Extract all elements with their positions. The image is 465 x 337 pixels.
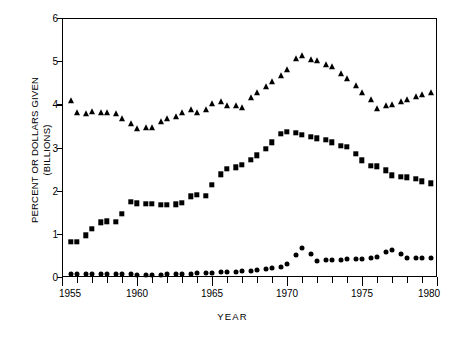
- data-point-square: [149, 201, 154, 206]
- data-point-square: [128, 199, 133, 204]
- data-point-triangle: [428, 89, 434, 95]
- data-point-circle: [255, 268, 260, 273]
- x-tick-label: 1980: [418, 288, 440, 299]
- axis-spine-left: [62, 18, 63, 277]
- data-point-square: [353, 151, 358, 156]
- data-point-circle: [375, 255, 380, 260]
- data-point-triangle: [254, 89, 260, 95]
- x-tick-minor: [107, 277, 108, 283]
- data-point-square: [179, 200, 184, 205]
- data-point-circle: [165, 272, 170, 277]
- x-tick-minor: [407, 277, 408, 283]
- data-point-square: [233, 165, 238, 170]
- data-point-circle: [234, 269, 239, 274]
- data-point-circle: [414, 255, 419, 260]
- data-point-triangle: [134, 125, 140, 131]
- data-point-triangle: [224, 102, 230, 108]
- x-tick-minor: [377, 277, 378, 283]
- data-point-square: [98, 219, 103, 224]
- x-tick-minor: [422, 277, 423, 283]
- data-point-circle: [180, 271, 185, 276]
- data-point-circle: [204, 270, 209, 275]
- data-point-circle: [144, 272, 149, 277]
- data-point-square: [143, 201, 148, 206]
- data-point-square: [188, 194, 193, 199]
- data-point-circle: [69, 271, 74, 276]
- x-tick-minor: [347, 277, 348, 283]
- x-tick-major: [212, 277, 213, 286]
- x-tick-minor: [197, 277, 198, 283]
- axis-spine-bottom: [62, 276, 437, 277]
- data-point-circle: [294, 252, 299, 257]
- data-point-circle: [429, 255, 434, 260]
- data-point-square: [68, 239, 73, 244]
- data-point-square: [89, 226, 94, 231]
- data-point-square: [404, 175, 409, 180]
- data-point-circle: [300, 245, 305, 250]
- y-tick-label: 6: [52, 13, 58, 24]
- data-point-square: [398, 174, 403, 179]
- data-point-circle: [399, 252, 404, 257]
- plot-area: 0123456 195519601965197019751980: [62, 18, 437, 277]
- data-point-triangle: [74, 109, 80, 115]
- data-point-square: [74, 239, 79, 244]
- axis-spine-top: [62, 18, 437, 19]
- data-point-circle: [360, 256, 365, 261]
- data-point-triangle: [278, 72, 284, 78]
- x-tick-major: [287, 277, 288, 286]
- data-point-triangle: [194, 109, 200, 115]
- data-point-circle: [210, 270, 215, 275]
- y-axis-title: PERCENT OR DOLLARS GIVEN (BILLIONS): [29, 40, 53, 260]
- x-tick-major: [362, 277, 363, 286]
- data-point-square: [278, 131, 283, 136]
- x-tick-minor: [167, 277, 168, 283]
- data-point-circle: [384, 250, 389, 255]
- data-point-square: [368, 163, 373, 168]
- y-tick-label: 0: [52, 272, 58, 283]
- data-point-circle: [420, 255, 425, 260]
- data-point-triangle: [149, 124, 155, 130]
- data-point-square: [239, 162, 244, 167]
- data-point-circle: [339, 257, 344, 262]
- data-point-triangle: [239, 104, 245, 110]
- data-point-triangle: [119, 116, 125, 122]
- data-point-square: [374, 164, 379, 169]
- data-point-triangle: [269, 78, 275, 84]
- y-tick-label: 4: [52, 99, 58, 110]
- x-tick-minor: [77, 277, 78, 283]
- data-point-square: [104, 219, 109, 224]
- data-point-square: [248, 157, 253, 162]
- data-point-square: [83, 232, 88, 237]
- data-point-square: [314, 136, 319, 141]
- data-point-circle: [240, 269, 245, 274]
- data-point-triangle: [104, 109, 110, 115]
- data-point-triangle: [89, 108, 95, 114]
- data-point-circle: [324, 258, 329, 263]
- data-point-square: [224, 166, 229, 171]
- data-point-triangle: [209, 101, 215, 107]
- data-point-triangle: [314, 57, 320, 63]
- data-point-triangle: [164, 115, 170, 121]
- x-tick-minor: [227, 277, 228, 283]
- data-point-square: [308, 134, 313, 139]
- data-point-square: [338, 143, 343, 148]
- data-point-circle: [129, 272, 134, 277]
- data-point-square: [413, 176, 418, 181]
- data-point-triangle: [344, 76, 350, 82]
- data-point-square: [194, 192, 199, 197]
- data-point-circle: [270, 266, 275, 271]
- data-point-triangle: [419, 91, 425, 97]
- x-tick-label: 1970: [276, 288, 298, 299]
- data-point-triangle: [368, 96, 374, 102]
- data-point-square: [269, 140, 274, 145]
- y-tick-label: 5: [52, 56, 58, 67]
- data-point-circle: [99, 272, 104, 277]
- data-point-circle: [309, 251, 314, 256]
- data-point-circle: [105, 272, 110, 277]
- data-point-square: [323, 137, 328, 142]
- x-tick-minor: [332, 277, 333, 283]
- data-point-square: [293, 130, 298, 135]
- data-point-circle: [225, 270, 230, 275]
- data-point-square: [419, 178, 424, 183]
- data-point-circle: [315, 259, 320, 264]
